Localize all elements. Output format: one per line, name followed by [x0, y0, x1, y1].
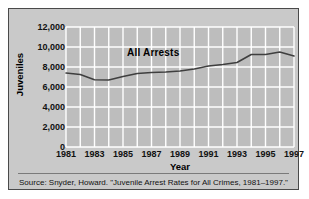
x-tick-label: 1989: [165, 149, 195, 160]
chart-figure-panel: 12,000 10,000 8,000 6,000 4,000 2,000 0 …: [8, 8, 299, 190]
source-caption: Source: Snyder, Howard. "Juvenile Arrest…: [18, 177, 289, 188]
x-tick-label: 1981: [51, 149, 81, 160]
x-tick-label: 1991: [194, 149, 224, 160]
chart-plot-region: 12,000 10,000 8,000 6,000 4,000 2,000 0 …: [9, 9, 298, 163]
x-tick-label: 1993: [222, 149, 252, 160]
x-axis-title: Year: [66, 161, 294, 172]
x-tick-label: 1985: [108, 149, 138, 160]
caption-divider: [18, 173, 289, 174]
x-tick-label: 1995: [251, 149, 281, 160]
x-tick-label: 1987: [137, 149, 167, 160]
x-tick-label: 1983: [80, 149, 110, 160]
x-tick-label: 1997: [279, 149, 309, 160]
series-annotation-label: All Arrests: [127, 47, 179, 58]
chart-canvas: [9, 9, 298, 163]
